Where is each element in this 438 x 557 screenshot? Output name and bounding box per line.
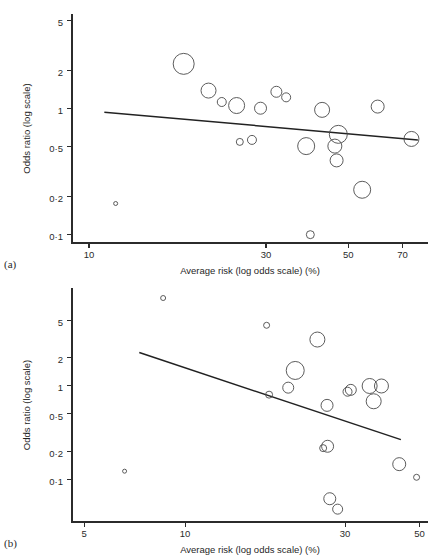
- y-axis-tick-label: 2: [58, 354, 63, 365]
- data-point-bubble: [371, 100, 384, 113]
- data-point-bubble: [310, 332, 325, 347]
- y-axis-tick-label: 5: [58, 317, 63, 328]
- x-axis-title: Average risk (log odds scale) (%): [180, 544, 320, 555]
- y-axis-tick-label: 2: [58, 67, 63, 78]
- data-point-bubble: [255, 102, 267, 114]
- panel-label-a: (a): [4, 258, 16, 270]
- data-point-bubble: [345, 384, 356, 395]
- data-point-bubble: [324, 493, 336, 505]
- data-point-bubble: [229, 98, 245, 114]
- data-point-bubble: [366, 394, 381, 409]
- axis-lines: [72, 14, 428, 243]
- x-axis-tick-label: 10: [84, 249, 95, 260]
- data-point-bubble: [217, 98, 226, 107]
- data-point-bubble: [286, 361, 304, 379]
- data-point-bubble: [161, 296, 166, 301]
- y-axis-title: Odds ratio (log scale): [21, 83, 32, 173]
- scatter-plot-a: 5210·50·20·110305070Average risk (log od…: [0, 0, 438, 280]
- x-axis-tick-label: 30: [340, 528, 351, 539]
- data-point-bubble: [330, 154, 343, 167]
- y-axis-tick-label: 0·5: [49, 411, 63, 422]
- data-point-bubble: [343, 387, 352, 396]
- data-point-bubble: [201, 83, 216, 98]
- y-axis-title: Odds ratio (log scale): [21, 360, 32, 450]
- data-point-bubble: [247, 135, 256, 144]
- chart-panel-b: 5210·50·20·15103050Average risk (log odd…: [0, 280, 438, 557]
- data-point-bubble: [354, 181, 371, 198]
- data-point-bubble: [414, 474, 420, 480]
- x-axis-tick-label: 70: [397, 249, 408, 260]
- regression-line: [139, 353, 401, 440]
- data-point-bubble: [236, 138, 243, 145]
- x-axis-tick-label: 50: [343, 249, 354, 260]
- data-point-bubble: [315, 102, 330, 117]
- data-point-bubble: [393, 458, 406, 471]
- data-point-bubble: [283, 382, 294, 393]
- regression-line: [104, 112, 418, 140]
- y-axis-tick-label: 0·2: [49, 193, 63, 204]
- axis-lines: [72, 288, 428, 522]
- y-axis-tick-label: 1: [58, 382, 63, 393]
- data-point-bubble: [374, 379, 388, 393]
- x-axis-tick-label: 10: [180, 528, 191, 539]
- data-point-bubble: [333, 504, 343, 514]
- y-axis-tick-label: 5: [58, 17, 63, 28]
- chart-panel-a: 5210·50·20·110305070Average risk (log od…: [0, 0, 438, 280]
- data-point-bubble: [282, 93, 291, 102]
- data-point-bubble: [271, 86, 282, 97]
- y-axis-tick-label: 0·1: [49, 231, 63, 242]
- data-point-bubble: [298, 138, 315, 155]
- data-point-bubble: [329, 125, 347, 143]
- data-point-bubble: [123, 469, 127, 473]
- scatter-plot-b: 5210·50·20·15103050Average risk (log odd…: [0, 280, 438, 557]
- data-point-bubble: [321, 399, 333, 411]
- data-point-bubble: [173, 53, 194, 74]
- y-axis-tick-label: 0·5: [49, 143, 63, 154]
- panel-label-b: (b): [4, 537, 17, 549]
- y-axis-tick-label: 1: [58, 105, 63, 116]
- x-axis-tick-label: 50: [414, 528, 425, 539]
- data-point-bubble: [306, 231, 314, 239]
- x-axis-tick-label: 5: [81, 528, 86, 539]
- data-point-bubble: [114, 202, 118, 206]
- x-axis-tick-label: 30: [261, 249, 272, 260]
- data-point-bubble: [322, 440, 334, 452]
- data-point-bubble: [264, 322, 270, 328]
- y-axis-tick-label: 0·1: [49, 476, 63, 487]
- y-axis-tick-label: 0·2: [49, 448, 63, 459]
- x-axis-title: Average risk (log odds scale) (%): [180, 265, 320, 276]
- data-point-bubble: [328, 139, 342, 153]
